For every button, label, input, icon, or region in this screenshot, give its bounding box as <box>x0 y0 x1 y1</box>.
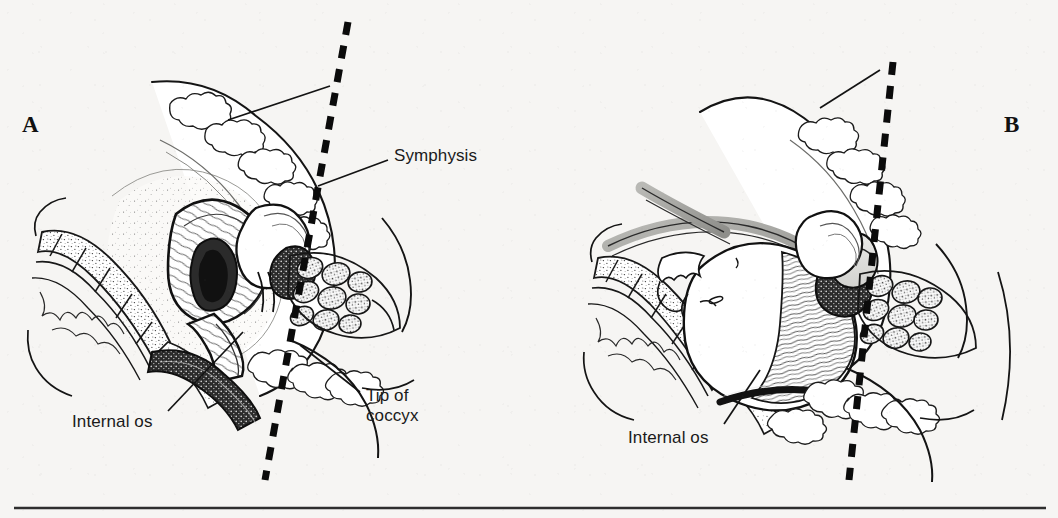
panel-letter-b: B <box>1004 112 1019 138</box>
bladder <box>796 211 862 278</box>
label-symphysis: Symphysis <box>394 146 477 166</box>
label-internal-os-b: Internal os <box>628 428 708 448</box>
label-tip-of-coccyx-line1: Tip of <box>366 386 409 406</box>
panel-letter-a: A <box>22 112 39 138</box>
label-tip-of-coccyx-line2: coccyx <box>366 406 419 426</box>
pelvic-sagittal-figure <box>0 0 1058 518</box>
label-internal-os-a: Internal os <box>72 412 152 432</box>
